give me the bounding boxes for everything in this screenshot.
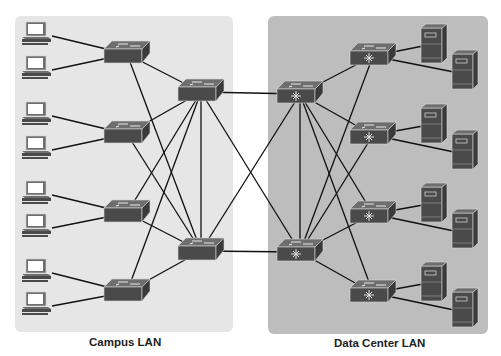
switch-icon [178, 238, 224, 260]
switch-icon [104, 121, 150, 143]
campus-lan-label: Campus LAN [89, 336, 161, 348]
multilayer-switch-icon [350, 201, 396, 223]
server-icon [452, 288, 478, 327]
switch-icon [104, 200, 150, 222]
panels-layer [15, 16, 488, 334]
data-center-lan-label: Data Center LAN [334, 337, 425, 349]
server-icon [421, 24, 447, 63]
server-icon [421, 104, 447, 143]
multilayer-switch-icon [350, 122, 396, 144]
switch-icon [104, 41, 150, 63]
multilayer-switch-icon [277, 81, 323, 103]
server-icon [421, 262, 447, 301]
multilayer-switch-icon [350, 280, 396, 302]
network-diagram [0, 0, 501, 356]
server-icon [452, 130, 478, 169]
switch-icon [104, 279, 150, 301]
server-icon [421, 183, 447, 222]
multilayer-switch-icon [350, 43, 396, 65]
server-icon [452, 50, 478, 89]
server-icon [452, 209, 478, 248]
multilayer-switch-icon [277, 239, 323, 261]
switch-icon [178, 79, 224, 101]
